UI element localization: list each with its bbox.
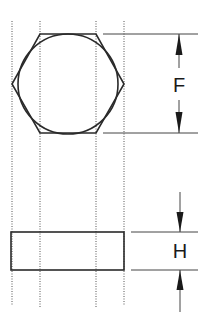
arrow-down-icon — [177, 212, 184, 232]
arrow-down-icon — [176, 112, 183, 133]
top-view — [12, 34, 124, 134]
inscribed-circle — [18, 34, 118, 134]
construction-lines — [12, 21, 124, 307]
dimension-label-h: H — [173, 240, 187, 262]
arrow-up-icon — [176, 34, 183, 55]
hex-nut-diagram: F H — [0, 0, 210, 325]
hexagon-outline — [12, 34, 124, 133]
arrow-up-icon — [177, 270, 184, 290]
dimension-label-f: F — [173, 74, 185, 96]
dimension-h: H — [131, 192, 198, 312]
side-view-rectangle — [11, 232, 124, 270]
